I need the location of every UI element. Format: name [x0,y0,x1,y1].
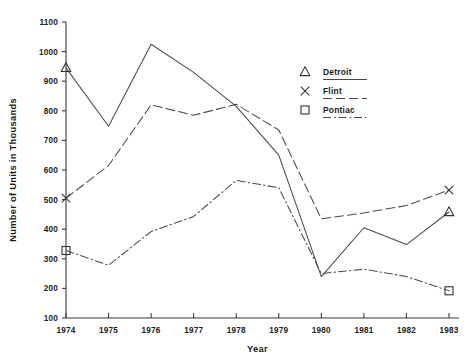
x-tick-label-1976: 1976 [142,326,161,335]
chart-canvas: 1002003004005006007008009001000110019741… [0,0,467,362]
series-line-detroit [66,44,449,276]
x-tick-label-1981: 1981 [354,326,373,335]
legend-symbol-flint [301,87,310,96]
y-tick-label-1100: 1100 [39,18,58,27]
y-tick-label-100: 100 [44,314,59,323]
y-tick-label-700: 700 [44,136,59,145]
y-tick-label-300: 300 [44,255,59,264]
y-tick-label-1000: 1000 [39,48,58,57]
y-tick-label-800: 800 [44,107,59,116]
series-line-flint [66,104,449,219]
y-tick-label-900: 900 [44,77,59,86]
y-tick-label-400: 400 [44,225,59,234]
legend-symbol-pontiac [301,106,309,114]
legend-symbol-detroit [300,67,310,76]
y-axis-title: Number of Units in Thousands [8,98,18,242]
legend-label-flint: Flint [323,86,342,96]
x-tick-label-1983: 1983 [439,326,458,335]
y-tick-label-200: 200 [44,284,59,293]
x-tick-label-1975: 1975 [99,326,118,335]
y-tick-label-600: 600 [44,166,59,175]
x-tick-label-1977: 1977 [184,326,203,335]
x-tick-label-1979: 1979 [269,326,288,335]
x-axis-title: Year [247,344,268,354]
line-chart: 1002003004005006007008009001000110019741… [0,0,467,362]
marker-flint-end [445,186,454,195]
x-tick-label-1982: 1982 [397,326,416,335]
y-tick-label-500: 500 [44,196,59,205]
legend-label-detroit: Detroit [323,67,352,77]
x-tick-label-1980: 1980 [312,326,331,335]
x-tick-label-1974: 1974 [56,326,75,335]
legend-label-pontiac: Pontiac [323,105,355,115]
x-tick-label-1978: 1978 [227,326,246,335]
series-line-pontiac [66,180,449,290]
